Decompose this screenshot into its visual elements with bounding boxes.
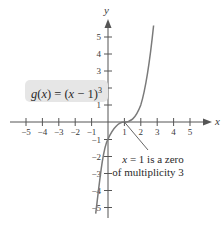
y-tick-label: 3 — [97, 66, 102, 76]
function-tail: − 1) — [74, 87, 98, 101]
y-tick-label: 4 — [97, 49, 102, 59]
x-tick-label: 3 — [155, 127, 160, 137]
y-axis-label: y — [103, 4, 109, 16]
x-tick-label: 2 — [139, 127, 144, 137]
x-tick-label: −4 — [38, 127, 48, 137]
function-exponent: 3 — [98, 86, 102, 95]
x-tick-label: −5 — [21, 127, 31, 137]
x-axis: −5 −4 −3 −2 −1 1 2 3 4 5 x — [10, 115, 220, 137]
annotation-line1: = 1 is a zero — [127, 153, 184, 165]
y-tick-label: 5 — [97, 32, 102, 42]
x-tick-label: −3 — [54, 127, 64, 137]
y-tick-label: −4 — [91, 186, 101, 196]
x-tick-label: 5 — [188, 127, 193, 137]
y-tick-label: −1 — [91, 135, 101, 145]
x-tick-label: 4 — [171, 127, 176, 137]
y-tick-label: −2 — [91, 152, 101, 162]
x-tick-label: −2 — [70, 127, 80, 137]
y-axis-arrow-icon — [105, 19, 112, 28]
function-mid: ) = ( — [47, 87, 69, 101]
svg-text:x = 1 is a zero: x = 1 is a zero — [121, 153, 184, 165]
function-name: g — [31, 87, 37, 101]
function-label: g(x) = (x − 1)3 — [25, 80, 108, 102]
zero-annotation: x = 1 is a zero of multiplicity 3 — [112, 153, 184, 178]
annotation-line2: of multiplicity 3 — [112, 166, 184, 178]
annotation-leader-line — [124, 122, 148, 150]
x-tick-labels: −5 −4 −3 −2 −1 1 2 3 4 5 — [21, 127, 193, 137]
x-axis-arrow-icon — [203, 119, 212, 126]
cubic-function-graph: −5 −4 −3 −2 −1 1 2 3 4 5 x — [0, 0, 222, 236]
x-tick-label: 1 — [122, 127, 127, 137]
y-axis: 5 4 3 2 1 −1 −2 −3 −4 −5 y — [91, 4, 112, 218]
x-axis-label: x — [214, 115, 220, 127]
